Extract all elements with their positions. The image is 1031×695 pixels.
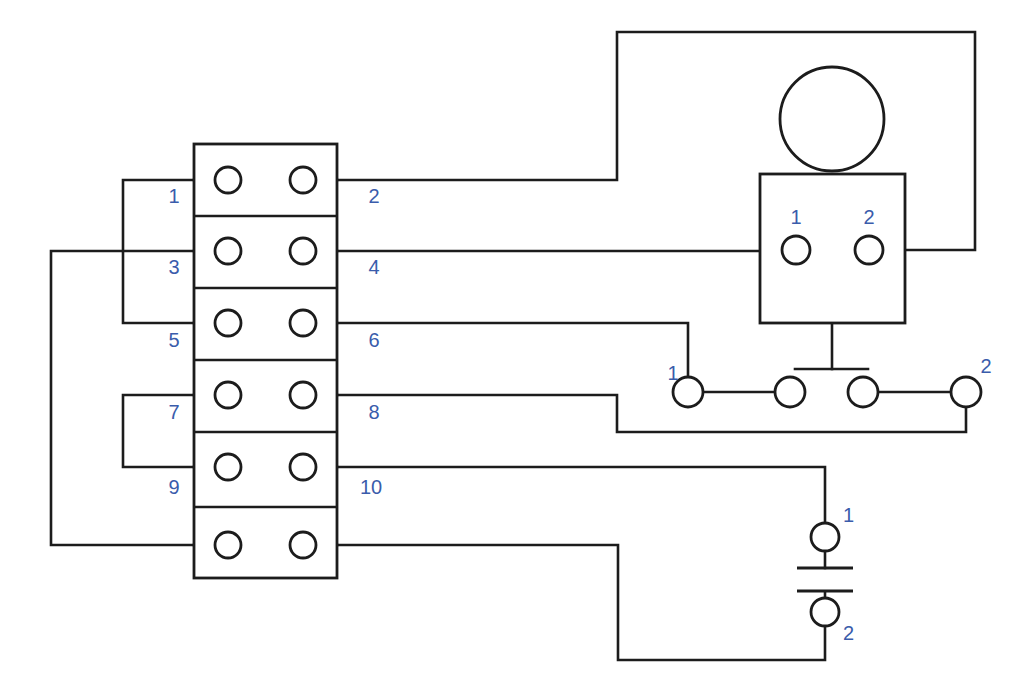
- wire-t6-to-switch-1: [303, 323, 688, 392]
- label-terminal-7: 7: [168, 401, 179, 423]
- label-motor-terminal-1: 1: [790, 206, 801, 228]
- capacitor[interactable]: [797, 523, 853, 626]
- terminal-hole-2[interactable]: [290, 167, 316, 193]
- terminal-hole-6[interactable]: [290, 310, 316, 336]
- diagram-canvas: 1 2 3 4 5 6 7 8 9 10 1 2 1 2 1 2: [0, 0, 1031, 695]
- terminal-hole-10[interactable]: [290, 454, 316, 480]
- label-terminal-8: 8: [368, 401, 379, 423]
- wiring-diagram-svg: 1 2 3 4 5 6 7 8 9 10 1 2 1 2 1 2: [0, 0, 1031, 695]
- label-terminal-4: 4: [368, 256, 379, 278]
- label-terminal-2: 2: [368, 185, 379, 207]
- terminal-hole-1[interactable]: [215, 167, 241, 193]
- motor-device[interactable]: [760, 67, 905, 323]
- label-terminal-9: 9: [168, 476, 179, 498]
- terminal-hole-3[interactable]: [215, 238, 241, 264]
- terminal-hole-7[interactable]: [215, 382, 241, 408]
- capacitor-terminal-node-1[interactable]: [811, 523, 839, 551]
- terminal-hole-4[interactable]: [290, 238, 316, 264]
- terminal-block[interactable]: [194, 144, 337, 578]
- terminal-hole-8[interactable]: [290, 382, 316, 408]
- terminal-hole-9[interactable]: [215, 454, 241, 480]
- label-terminal-3: 3: [168, 256, 179, 278]
- label-terminal-1: 1: [168, 185, 179, 207]
- label-capacitor-terminal-2: 2: [843, 622, 854, 644]
- label-switch-terminal-1: 1: [667, 362, 678, 384]
- terminal-hole-5[interactable]: [215, 310, 241, 336]
- motor-terminal-hole-1[interactable]: [782, 236, 810, 264]
- label-capacitor-terminal-1: 1: [843, 504, 854, 526]
- label-switch-terminal-2: 2: [980, 355, 991, 377]
- switch-contact-node-left: [775, 377, 805, 407]
- terminal-hole-12[interactable]: [290, 532, 316, 558]
- label-terminal-10: 10: [360, 476, 382, 498]
- wire-t12-to-capacitor-2: [303, 545, 825, 660]
- capacitor-terminal-node-2[interactable]: [811, 598, 839, 626]
- switch-terminal-node-2[interactable]: [951, 377, 981, 407]
- label-motor-terminal-2: 2: [863, 206, 874, 228]
- label-terminal-6: 6: [368, 329, 379, 351]
- motor-terminal-hole-2[interactable]: [855, 236, 883, 264]
- label-terminal-5: 5: [168, 329, 179, 351]
- motor-coil-circle-icon: [780, 67, 884, 171]
- terminal-hole-11[interactable]: [215, 532, 241, 558]
- switch-contact-node-right: [848, 377, 878, 407]
